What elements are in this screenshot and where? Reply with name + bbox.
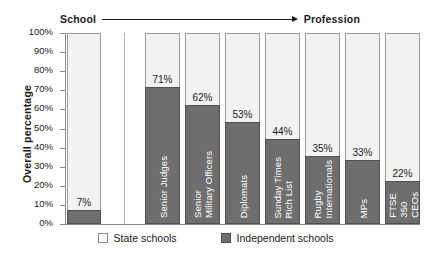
bar-category-label: Senior Judges bbox=[157, 156, 168, 218]
legend-item-independent[interactable]: Independent schools bbox=[221, 232, 334, 244]
y-axis-tick: 90% bbox=[60, 52, 65, 53]
bar-category-label: MPs bbox=[357, 199, 368, 218]
legend-label: Independent schools bbox=[237, 232, 334, 244]
y-axis-tick-label: 80% bbox=[19, 64, 53, 75]
bar-value-label: 44% bbox=[266, 126, 299, 137]
y-axis-tick: 50% bbox=[60, 129, 65, 130]
y-axis-tick-label: 20% bbox=[19, 179, 53, 190]
y-axis-tick-label: 50% bbox=[19, 122, 53, 133]
legend-swatch-icon bbox=[221, 233, 231, 243]
y-axis-tick: 80% bbox=[60, 71, 65, 72]
y-axis-tick-label: 70% bbox=[19, 83, 53, 94]
bar-value-label: 7% bbox=[68, 197, 100, 208]
bar-value-label: 71% bbox=[146, 74, 179, 85]
y-axis-tick: 30% bbox=[60, 167, 65, 168]
header-label-profession: Profession bbox=[304, 13, 360, 25]
header-label-school: School bbox=[60, 13, 96, 25]
y-axis-tick-label: 0% bbox=[19, 217, 53, 228]
bar-value-label: 33% bbox=[346, 147, 379, 158]
y-axis-tick-label: 90% bbox=[19, 45, 53, 56]
y-axis-tick: 10% bbox=[60, 205, 65, 206]
y-axis-tick-label: 60% bbox=[19, 102, 53, 113]
bar-chart: School Profession Overall percentage 100… bbox=[0, 0, 431, 263]
chart-legend: State schoolsIndependent schools bbox=[0, 232, 431, 244]
legend-label: State schools bbox=[114, 232, 177, 244]
legend-swatch-icon bbox=[98, 233, 108, 243]
bar-mps[interactable]: 33%MPs bbox=[345, 33, 380, 224]
bar-value-label: 22% bbox=[386, 168, 419, 179]
bar-sunday-times-rich-list[interactable]: 44%Sunday Times Rich List bbox=[265, 33, 300, 224]
y-axis-tick-label: 30% bbox=[19, 160, 53, 171]
y-axis-tick-label: 10% bbox=[19, 198, 53, 209]
y-axis-tick: 20% bbox=[60, 186, 65, 187]
bar-category-label: Rugby Internationals bbox=[312, 160, 334, 218]
bar-category-label: Diplomats bbox=[237, 175, 248, 218]
y-axis-line bbox=[65, 33, 66, 224]
y-axis-tick: 100% bbox=[60, 33, 65, 34]
y-axis-tick: 60% bbox=[60, 109, 65, 110]
bar-value-label: 53% bbox=[226, 109, 259, 120]
chart-header-annotation: School Profession bbox=[60, 10, 360, 28]
bar-diplomats[interactable]: 53%Diplomats bbox=[225, 33, 260, 224]
y-axis-tick: 70% bbox=[60, 90, 65, 91]
bar-category-label: FTSE 350 CEOs bbox=[386, 192, 419, 218]
bar-ftse-350-ceos[interactable]: 22%FTSE 350 CEOs bbox=[385, 33, 420, 224]
bar-school[interactable]: 7% bbox=[67, 33, 101, 224]
legend-item-state[interactable]: State schools bbox=[98, 232, 177, 244]
bar-category-label: Senior Military Officers bbox=[192, 151, 214, 218]
x-axis-line bbox=[65, 224, 420, 225]
bar-segment-independent bbox=[67, 210, 101, 224]
bar-senior-military-officers[interactable]: 62%Senior Military Officers bbox=[185, 33, 220, 224]
y-axis-tick: 40% bbox=[60, 148, 65, 149]
bar-senior-judges[interactable]: 71%Senior Judges bbox=[145, 33, 180, 224]
y-axis-tick: 0% bbox=[60, 224, 65, 225]
arrow-right-icon bbox=[102, 14, 298, 24]
bar-value-label: 35% bbox=[306, 143, 339, 154]
bar-rugby-internationals[interactable]: 35%Rugby Internationals bbox=[305, 33, 340, 224]
bar-value-label: 62% bbox=[186, 92, 219, 103]
y-axis-tick-label: 40% bbox=[19, 141, 53, 152]
group-separator-line bbox=[124, 33, 125, 224]
bar-category-label: Sunday Times Rich List bbox=[272, 157, 294, 218]
plot-area: 100%90%80%70%60%50%40%30%20%10%0% 7%71%S… bbox=[65, 33, 420, 224]
y-axis-tick-label: 100% bbox=[19, 26, 53, 37]
